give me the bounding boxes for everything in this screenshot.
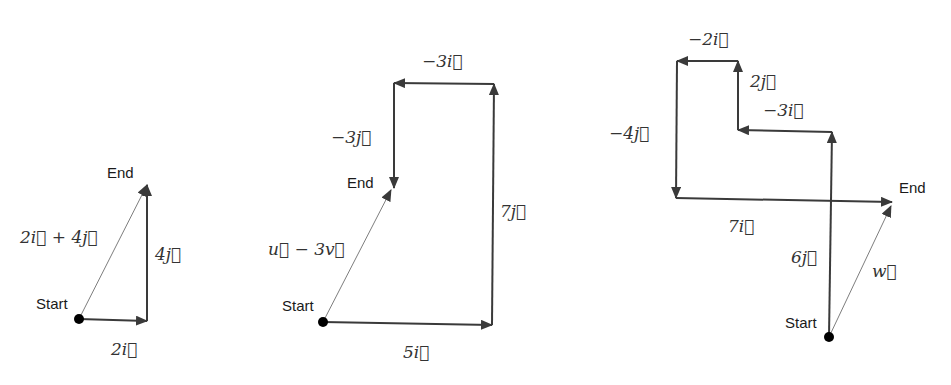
component-arrow-7j	[492, 84, 494, 325]
component-arrow-2i	[79, 319, 147, 321]
start-label: Start	[785, 314, 818, 331]
component-label-neg2i: −2i⃗	[688, 29, 729, 49]
component-arrow-7i	[676, 198, 892, 202]
component-label-7j: 7j⃗	[500, 201, 526, 221]
resultant-arrow	[79, 185, 147, 319]
component-label-neg3j: −3j⃗	[331, 127, 372, 147]
component-label-7i: 7i⃗	[728, 216, 754, 236]
start-label: Start	[36, 295, 69, 312]
component-arrow-neg4j	[676, 61, 677, 198]
start-dot	[74, 314, 84, 324]
component-arrow-neg3i	[394, 83, 494, 84]
component-label-neg3i: −3i⃗	[763, 100, 804, 120]
component-label-4j: 4j⃗	[154, 244, 181, 264]
start-dot	[824, 332, 834, 342]
resultant-label: 2i⃗ + 4j⃗	[19, 227, 98, 247]
start-dot	[318, 317, 328, 327]
component-label-neg4j: −4j⃗	[609, 123, 650, 143]
end-label: End	[899, 179, 926, 196]
vector-addition-diagrams: Start End 2i⃗ 4j⃗ 2i⃗ + 4j⃗ Start End 5i…	[0, 0, 951, 385]
diagram-2: Start End 5i⃗ 7j⃗ −3i⃗ −3j⃗ u⃗ − 3v⃗	[268, 51, 526, 362]
component-label-5i: 5i⃗	[403, 342, 429, 362]
component-arrow-6j	[829, 132, 832, 337]
end-label: End	[107, 164, 134, 181]
resultant-label: w⃗	[872, 261, 897, 281]
component-label-2j: 2j⃗	[749, 71, 776, 91]
component-arrow-neg3i	[738, 130, 832, 132]
end-label: End	[347, 174, 374, 191]
component-label-neg3i: −3i⃗	[422, 51, 463, 71]
start-label: Start	[282, 297, 315, 314]
component-label-6j: 6j⃗	[791, 247, 817, 267]
diagram-3: Start End 6j⃗ −3i⃗ 2j⃗ −2i⃗ −4j⃗ 7i⃗ w⃗	[609, 29, 926, 342]
diagram-1: Start End 2i⃗ 4j⃗ 2i⃗ + 4j⃗	[19, 164, 181, 359]
component-label-2i: 2i⃗	[110, 339, 137, 359]
resultant-label: u⃗ − 3v⃗	[268, 239, 345, 259]
component-arrow-5i	[323, 322, 492, 325]
